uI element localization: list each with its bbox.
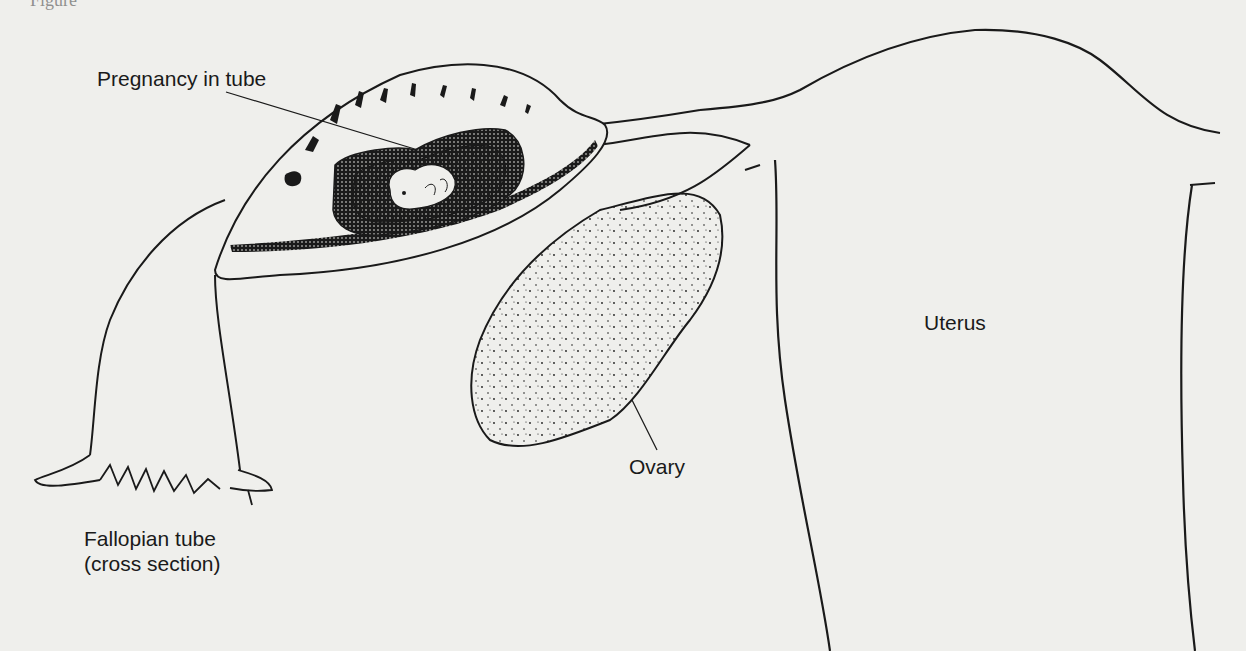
label-uterus: Uterus — [924, 311, 986, 335]
tube-stalk — [90, 200, 240, 470]
label-ovary: Ovary — [629, 455, 685, 479]
uterus-outline — [700, 30, 1220, 651]
label-fallopian-tube: Fallopian tube — [84, 527, 216, 551]
fimbriae — [35, 455, 272, 505]
label-cross-section: (cross section) — [84, 552, 221, 576]
ovary-shape — [471, 194, 722, 447]
label-pregnancy-in-tube: Pregnancy in tube — [97, 67, 266, 91]
